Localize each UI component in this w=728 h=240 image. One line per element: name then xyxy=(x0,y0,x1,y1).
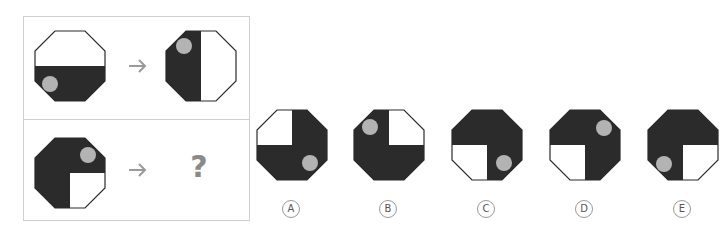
option-a-figure[interactable] xyxy=(256,109,328,181)
option-e-figure[interactable] xyxy=(647,109,719,181)
option-b-label[interactable]: B xyxy=(379,200,397,218)
option-d-label[interactable]: D xyxy=(575,200,593,218)
option-e-label[interactable]: E xyxy=(673,200,691,218)
unknown-answer: ? xyxy=(184,149,214,185)
option-b-figure[interactable] xyxy=(353,109,425,181)
figure-row1-result xyxy=(165,30,237,102)
arrow-icon xyxy=(128,59,148,73)
option-c-label[interactable]: C xyxy=(477,200,495,218)
arrow-icon xyxy=(128,163,148,177)
figure-row2-source xyxy=(34,137,106,209)
question-divider xyxy=(23,119,250,120)
option-a-label[interactable]: A xyxy=(282,200,300,218)
figure-row1-source xyxy=(34,30,106,102)
option-d-figure[interactable] xyxy=(549,109,621,181)
option-c-figure[interactable] xyxy=(451,109,523,181)
